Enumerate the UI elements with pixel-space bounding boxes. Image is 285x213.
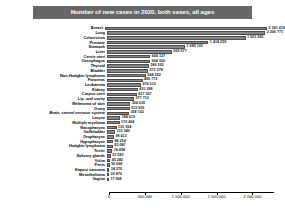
bar xyxy=(107,83,141,87)
bar xyxy=(107,31,265,35)
category-label: Hodgkin lymphoma xyxy=(0,144,107,148)
bar-value-label: 431 288 xyxy=(139,88,152,92)
bar xyxy=(107,173,109,177)
axis-tick-label: 0 xyxy=(108,195,110,199)
axis-tick-label: 1 000 000 xyxy=(172,195,190,199)
bar xyxy=(105,27,267,31)
chart-page: Number of new cases in 2020, both sexes,… xyxy=(0,0,285,213)
bar xyxy=(107,178,109,182)
bar-value-label: 30 870 xyxy=(111,173,122,177)
bar xyxy=(107,168,109,172)
bar xyxy=(107,79,143,83)
page-title: Number of new cases in 2020, both sexes,… xyxy=(71,9,215,15)
bar xyxy=(107,102,130,106)
bar-chart-plot-area: Breast2 261 419Lung2 206 771Colorectum1 … xyxy=(0,26,285,192)
x-axis: 0500 0001 000 0001 500 0002 000 000 xyxy=(0,192,285,213)
bar xyxy=(107,88,138,92)
bar xyxy=(107,64,149,68)
category-label: Vagina xyxy=(0,177,107,181)
bar-value-label: 905 677 xyxy=(173,50,186,54)
category-label: Salivary glands xyxy=(0,154,107,158)
bar xyxy=(107,93,137,97)
axis-tick-label: 2 000 000 xyxy=(244,195,262,199)
bar xyxy=(107,116,120,120)
category-label: Brain, central nervous system xyxy=(0,111,107,115)
bar-row: Vagina17 908 xyxy=(0,177,285,182)
axis-tick-label: 500 000 xyxy=(138,195,152,199)
bar-value-label: 1 089 103 xyxy=(187,45,203,49)
category-label: Mesothelioma xyxy=(0,173,107,177)
bar xyxy=(107,97,134,101)
x-axis-line xyxy=(109,192,274,193)
bar xyxy=(107,154,111,158)
axis-tick-label: 1 500 000 xyxy=(208,195,226,199)
bar xyxy=(107,126,117,130)
bar xyxy=(107,145,113,149)
bar xyxy=(107,55,150,59)
bar xyxy=(107,140,113,144)
bar xyxy=(107,60,150,64)
bar xyxy=(107,163,110,167)
bar xyxy=(107,107,130,111)
bar xyxy=(107,74,146,78)
bar-value-label: 604 127 xyxy=(152,55,165,59)
bar-value-label: 2 206 771 xyxy=(267,31,283,35)
category-label: Stomach xyxy=(0,45,107,49)
bar-value-label: 1 414 259 xyxy=(210,41,226,45)
bar xyxy=(107,121,120,125)
chart-title-banner: Number of new cases in 2020, both sexes,… xyxy=(33,6,252,19)
bar-value-label: 1 931 590 xyxy=(247,36,263,40)
category-label: Leukaemia xyxy=(0,83,107,87)
bar-value-label: 17 908 xyxy=(110,178,121,182)
bar xyxy=(107,159,110,163)
category-label: Melanoma of skin xyxy=(0,102,107,106)
bar-container: 17 908 xyxy=(107,177,285,182)
category-label: Vulva xyxy=(0,159,107,163)
category-label: Breast xyxy=(0,26,105,30)
bar xyxy=(107,135,114,139)
bar xyxy=(107,130,115,134)
bar xyxy=(107,69,148,73)
